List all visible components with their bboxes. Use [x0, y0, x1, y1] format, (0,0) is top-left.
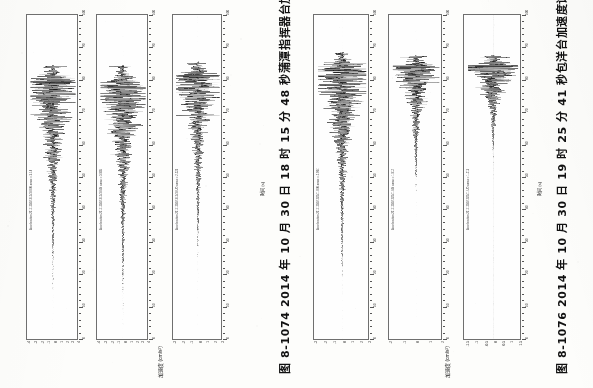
seismogram-canvas — [27, 15, 77, 339]
axis-minor-tick — [79, 164, 81, 165]
axis-minor-tick — [370, 190, 372, 191]
axis-tick-label: 10 — [525, 303, 529, 306]
axis-minor-tick — [79, 313, 81, 314]
axis-minor-tick — [149, 294, 151, 295]
axis-minor-tick — [370, 203, 372, 204]
axis-minor-tick — [149, 125, 151, 126]
axis-minor-tick — [522, 93, 524, 94]
axis-minor-tick — [79, 326, 81, 327]
axis-minor-tick — [149, 203, 151, 204]
axis-minor-tick — [443, 294, 445, 295]
amplitude-tick-label: 2 — [136, 341, 140, 343]
axis-tick — [522, 112, 526, 113]
axis-tick — [443, 177, 447, 178]
axis-minor-tick — [79, 158, 81, 159]
axis-tick — [223, 47, 227, 48]
axis-minor-tick — [522, 216, 524, 217]
axis-minor-tick — [370, 216, 372, 217]
amplitude-tick-label: 2 — [441, 341, 445, 343]
axis-tick-label: 70 — [82, 109, 86, 112]
axis-tick-label: 0 — [82, 337, 86, 339]
time-axis-panel-ud: 0102030405060708090100 — [522, 14, 538, 340]
axis-tick — [223, 209, 227, 210]
scan-artifact — [462, 19, 463, 20]
amplitude-tick-label: -1 — [118, 341, 122, 344]
axis-minor-tick — [522, 164, 524, 165]
axis-minor-tick — [522, 313, 524, 314]
axis-minor-tick — [443, 196, 445, 197]
axis-minor-tick — [522, 300, 524, 301]
axis-minor-tick — [79, 216, 81, 217]
seismogram-panel-ew: Acceleration 20141030/192541 EW amax = 2… — [313, 14, 369, 340]
scan-artifact — [313, 64, 314, 65]
scan-artifact — [170, 230, 171, 231]
amplitude-tick-label: 0 — [54, 341, 58, 343]
scan-artifact — [205, 185, 207, 187]
axis-tick — [149, 15, 153, 16]
axis-minor-tick — [370, 235, 372, 236]
axis-minor-tick — [370, 222, 372, 223]
trace-id-label: Acceleration 20141030/192541 EW amax = 2… — [317, 168, 320, 230]
axis-minor-tick — [370, 125, 372, 126]
axis-minor-tick — [443, 235, 445, 236]
scan-artifact — [49, 85, 50, 86]
amplitude-tick-label: -4 — [97, 341, 101, 344]
axis-minor-tick — [522, 190, 524, 191]
axis-minor-tick — [443, 326, 445, 327]
axis-tick-label: 60 — [226, 141, 230, 144]
axis-minor-tick — [223, 300, 225, 301]
axis-minor-tick — [443, 190, 445, 191]
axis-minor-tick — [223, 196, 225, 197]
axis-tick — [370, 209, 374, 210]
axis-minor-tick — [522, 60, 524, 61]
axis-minor-tick — [443, 216, 445, 217]
axis-tick-label: 30 — [446, 238, 450, 241]
axis-minor-tick — [443, 171, 445, 172]
axis-minor-tick — [522, 34, 524, 35]
axis-tick — [370, 112, 374, 113]
axis-minor-tick — [149, 216, 151, 217]
axis-tick-label: 70 — [373, 109, 377, 112]
axis-tick-label: 80 — [152, 76, 156, 79]
axis-tick-label: 60 — [525, 141, 529, 144]
axis-tick — [223, 15, 227, 16]
axis-minor-tick — [443, 54, 445, 55]
amplitude-tick-label: -2 — [111, 341, 115, 344]
axis-minor-tick — [149, 281, 151, 282]
axis-tick-label: 40 — [373, 206, 377, 209]
axis-minor-tick — [443, 158, 445, 159]
axis-minor-tick — [79, 261, 81, 262]
axis-minor-tick — [370, 21, 372, 22]
axis-minor-tick — [370, 287, 372, 288]
amplitude-tick-label: 0 — [416, 341, 420, 343]
axis-tick-label: 20 — [152, 271, 156, 274]
axis-minor-tick — [223, 21, 225, 22]
axis-minor-tick — [443, 268, 445, 269]
axis-minor-tick — [149, 196, 151, 197]
axis-minor-tick — [370, 229, 372, 230]
axis-minor-tick — [370, 313, 372, 314]
axis-title-time: 时间 (s) — [536, 182, 542, 196]
axis-tick — [370, 274, 374, 275]
axis-minor-tick — [79, 196, 81, 197]
axis-minor-tick — [79, 28, 81, 29]
axis-minor-tick — [223, 190, 225, 191]
axis-minor-tick — [149, 222, 151, 223]
seismogram-canvas — [464, 15, 520, 339]
axis-minor-tick — [79, 320, 81, 321]
axis-minor-tick — [522, 203, 524, 204]
axis-tick — [223, 274, 227, 275]
axis-minor-tick — [370, 294, 372, 295]
amplitude-tick-label: -2 — [389, 341, 393, 344]
axis-tick — [79, 177, 83, 178]
axis-title-acceleration: 加速度 (cm/s²) — [156, 346, 163, 378]
axis-tick — [522, 15, 526, 16]
axis-minor-tick — [443, 132, 445, 133]
axis-minor-tick — [370, 333, 372, 334]
axis-minor-tick — [223, 119, 225, 120]
axis-minor-tick — [522, 287, 524, 288]
axis-minor-tick — [522, 21, 524, 22]
axis-minor-tick — [370, 73, 372, 74]
axis-minor-tick — [443, 164, 445, 165]
axis-tick-label: 100 — [226, 10, 230, 15]
